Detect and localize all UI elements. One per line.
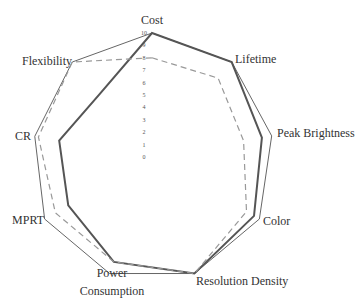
axis-label-flexibility: Flexibility (22, 54, 72, 68)
radar-series (35, 33, 272, 274)
axis-label-mprt: MPRT (12, 213, 45, 227)
axis-label-cost: Cost (141, 13, 164, 27)
axis-labels: CostLifetimePeak BrightnessColorResoluti… (12, 13, 355, 298)
tick-label: 0 (143, 154, 146, 160)
axis-label-peak-brightness: Peak Brightness (277, 126, 355, 140)
series-2 (38, 58, 246, 274)
tick-label: 1 (143, 142, 146, 148)
tick-label: 4 (143, 104, 146, 110)
series-1 (59, 33, 262, 274)
axis-label-lifetime: Lifetime (235, 52, 276, 66)
series-0 (35, 33, 272, 274)
axis-label-color: Color (263, 214, 290, 228)
radar-chart: 012345678910 CostLifetimePeak Brightness… (0, 0, 363, 305)
radial-tick-labels: 012345678910 (141, 30, 147, 160)
axis-label-resolution-density: Resolution Density (196, 274, 288, 288)
tick-label: 7 (143, 67, 146, 73)
tick-label: 5 (143, 92, 146, 98)
tick-label: 8 (143, 55, 146, 61)
tick-label: 2 (143, 129, 146, 135)
axis-label-cr: CR (15, 129, 31, 143)
axis-label-power-consumption: PowerConsumption (80, 266, 145, 298)
tick-label: 3 (143, 117, 146, 123)
tick-label: 6 (143, 80, 146, 86)
